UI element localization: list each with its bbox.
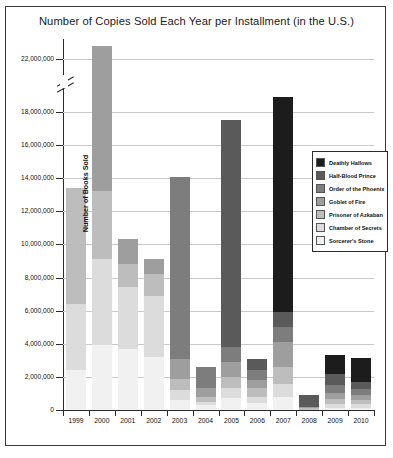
y-tick-label: 14,000,000 xyxy=(6,174,54,181)
x-tick xyxy=(89,410,90,416)
y-tick xyxy=(56,344,63,345)
bar-segment xyxy=(299,408,319,410)
bar-segment xyxy=(325,408,345,410)
bar-segment xyxy=(170,390,190,400)
y-tick xyxy=(56,410,63,411)
bar-segment xyxy=(92,191,112,259)
bar-segment xyxy=(325,374,345,386)
x-tick xyxy=(348,410,349,416)
legend-label: Deathly Hallows xyxy=(329,160,372,166)
legend-label: Prisoner of Azkaban xyxy=(329,212,383,218)
legend-item-5[interactable]: Chamber of Secrets xyxy=(316,221,384,234)
bar-segment xyxy=(247,403,267,410)
y-tick-label: 0 xyxy=(6,406,54,413)
bar-2002 xyxy=(144,39,164,410)
bar-segment xyxy=(170,379,190,391)
legend-label: Half-Blood Prince xyxy=(329,173,376,179)
legend-swatch-icon xyxy=(316,171,325,180)
y-tick-label: 16,000,000 xyxy=(6,141,54,148)
x-tick xyxy=(115,410,116,416)
bar-segment xyxy=(196,367,216,389)
bar-segment xyxy=(351,404,371,407)
x-tick xyxy=(322,410,323,416)
bar-segment xyxy=(221,120,241,347)
bar-segment xyxy=(273,367,293,384)
bar-segment xyxy=(221,347,241,362)
y-tick-label: 22,000,000 xyxy=(6,55,54,62)
bar-segment xyxy=(144,274,164,296)
x-tick xyxy=(244,410,245,416)
x-tick xyxy=(193,410,194,416)
bar-2006 xyxy=(247,39,267,410)
bar-2004 xyxy=(196,39,216,410)
chart-frame: Number of Copies Sold Each Year per Inst… xyxy=(5,6,386,446)
bar-2005 xyxy=(221,39,241,410)
bar-2001 xyxy=(118,39,138,410)
bar-segment xyxy=(351,382,371,389)
bar-segment xyxy=(92,345,112,410)
bar-segment xyxy=(144,259,164,274)
bar-segment xyxy=(118,239,138,264)
bar-segment xyxy=(196,405,216,410)
x-tick xyxy=(296,410,297,416)
y-tick-label: 8,000,000 xyxy=(6,274,54,281)
legend-item-2[interactable]: Order of the Phoenix xyxy=(316,182,384,195)
legend-swatch-icon xyxy=(316,223,325,232)
bar-segment xyxy=(325,355,345,373)
y-tick-label: 12,000,000 xyxy=(6,207,54,214)
bar-segment xyxy=(221,388,241,398)
bar-segment xyxy=(247,380,267,388)
legend-label: Sorcerer's Stone xyxy=(329,238,374,244)
y-tick xyxy=(56,59,63,60)
legend-label: Order of the Phoenix xyxy=(329,186,384,192)
legend-item-0[interactable]: Deathly Hallows xyxy=(316,156,384,169)
bar-segment xyxy=(273,384,293,397)
bar-segment xyxy=(351,395,371,400)
bar-segment xyxy=(273,312,293,327)
bar-segment xyxy=(170,359,190,379)
bar-segment xyxy=(196,397,216,402)
x-tick xyxy=(374,410,375,416)
chart-title: Number of Copies Sold Each Year per Inst… xyxy=(6,15,387,27)
legend-item-3[interactable]: Goblet of Fire xyxy=(316,195,384,208)
legend-item-1[interactable]: Half-Blood Prince xyxy=(316,169,384,182)
bar-segment xyxy=(118,349,138,410)
bar-segment xyxy=(66,370,86,410)
y-tick xyxy=(56,211,63,212)
bar-segment xyxy=(196,402,216,405)
bar-segment xyxy=(170,400,190,410)
legend-swatch-icon xyxy=(316,197,325,206)
bar-segment xyxy=(351,389,371,395)
y-tick xyxy=(56,244,63,245)
bar-segment xyxy=(273,397,293,410)
bar-segment xyxy=(247,397,267,404)
y-tick-label: 18,000,000 xyxy=(6,108,54,115)
legend-item-4[interactable]: Prisoner of Azkaban xyxy=(316,208,384,221)
bar-segment xyxy=(273,97,293,312)
y-tick xyxy=(56,311,63,312)
y-tick-label: 6,000,000 xyxy=(6,307,54,314)
bar-segment xyxy=(221,377,241,389)
bar-segment xyxy=(325,385,345,392)
bar-segment xyxy=(196,388,216,396)
bar-segment xyxy=(273,342,293,367)
bar-segment xyxy=(351,358,371,382)
bar-segment xyxy=(221,362,241,377)
bar-2000 xyxy=(92,39,112,410)
bar-segment xyxy=(92,46,112,192)
x-tick xyxy=(141,410,142,416)
y-tick-label: 4,000,000 xyxy=(6,340,54,347)
bar-2003 xyxy=(170,39,190,410)
bar-segment xyxy=(351,400,371,404)
y-tick-label: 2,000,000 xyxy=(6,373,54,380)
bar-segment xyxy=(247,370,267,380)
bar-segment xyxy=(273,327,293,342)
y-tick xyxy=(56,278,63,279)
bar-segment xyxy=(118,287,138,348)
bar-2007 xyxy=(273,39,293,410)
bar-segment xyxy=(170,177,190,359)
y-tick xyxy=(56,145,63,146)
legend-label: Chamber of Secrets xyxy=(329,225,382,231)
legend-item-6[interactable]: Sorcerer's Stone xyxy=(316,234,384,247)
bar-segment xyxy=(325,404,345,407)
